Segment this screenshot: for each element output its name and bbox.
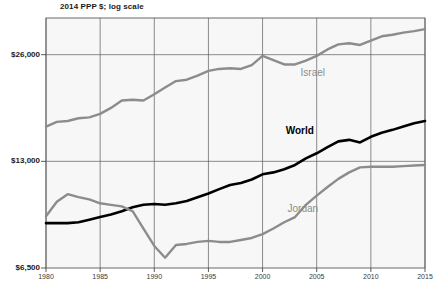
plot-background <box>46 18 425 268</box>
series-label-world: World <box>286 125 314 136</box>
series-label-jordan: Jordan <box>288 203 319 214</box>
y-axis-tick-label: $6,500 <box>0 263 40 272</box>
x-axis-tick-label: 1990 <box>139 273 169 280</box>
x-axis-tick-label: 2015 <box>410 273 440 280</box>
x-axis-ticks <box>46 268 425 272</box>
y-axis-tick-label: $13,000 <box>0 156 40 165</box>
x-axis-tick-label: 1980 <box>31 273 61 280</box>
x-axis-tick-label: 1995 <box>193 273 223 280</box>
x-axis-tick-label: 1985 <box>85 273 115 280</box>
y-axis-tick-label: $26,000 <box>0 50 40 59</box>
chart-plot-area <box>0 0 445 289</box>
y-axis-ticks <box>41 55 46 268</box>
chart-container: 2014 PPP $; log scale $26,000 $13,000 $6… <box>0 0 445 289</box>
x-axis-tick-label: 2005 <box>302 273 332 280</box>
x-axis-tick-label: 2010 <box>356 273 386 280</box>
x-axis-tick-label: 2000 <box>248 273 278 280</box>
series-label-israel: Israel <box>301 67 325 78</box>
